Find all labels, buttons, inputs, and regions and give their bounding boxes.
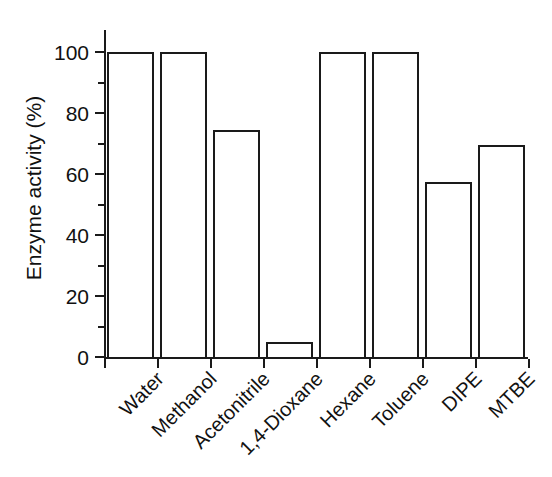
- y-tick-label: 0: [77, 347, 89, 368]
- bar-chart-figure: Enzyme activity (%) 020406080100 WaterMe…: [0, 0, 552, 477]
- bar: [372, 52, 419, 357]
- x-axis-label: MTBE: [484, 368, 537, 421]
- x-tick: [210, 359, 212, 368]
- x-tick: [475, 359, 477, 368]
- y-tick-label: 80: [66, 103, 89, 124]
- x-axis-label: Hexane: [316, 368, 379, 431]
- y-tick-minor: [98, 204, 104, 206]
- y-tick-major: 20: [95, 295, 104, 297]
- x-tick: [263, 359, 265, 368]
- x-axis-label: Water: [115, 368, 166, 419]
- bar: [107, 52, 154, 357]
- x-tick: [316, 359, 318, 368]
- y-tick-minor: [98, 326, 104, 328]
- x-tick: [369, 359, 371, 368]
- x-tick: [157, 359, 159, 368]
- bar: [425, 182, 472, 357]
- y-tick-label: 60: [66, 164, 89, 185]
- bar: [213, 130, 260, 357]
- x-axis-label-text: Toluene: [368, 368, 432, 432]
- y-tick-major: 80: [95, 112, 104, 114]
- x-axis-label-text: Water: [115, 368, 166, 419]
- x-axis-label-text: DIPE: [437, 368, 484, 415]
- x-tick: [422, 359, 424, 368]
- plot-area: 020406080100: [104, 30, 528, 359]
- y-tick-label: 100: [54, 42, 89, 63]
- x-axis-label: DIPE: [437, 368, 484, 415]
- y-tick-label: 20: [66, 286, 89, 307]
- y-tick-major: 100: [95, 51, 104, 53]
- y-tick-label: 40: [66, 225, 89, 246]
- bar: [160, 52, 207, 357]
- x-tick: [528, 359, 530, 368]
- x-axis-label-text: MTBE: [484, 368, 537, 421]
- x-tick: [104, 359, 106, 368]
- y-axis-title: Enzyme activity (%): [14, 18, 54, 358]
- y-tick-minor: [98, 265, 104, 267]
- bar: [478, 145, 525, 357]
- y-axis-spine: [104, 30, 106, 359]
- bar: [266, 342, 313, 357]
- bar: [319, 52, 366, 357]
- y-tick-major: 40: [95, 234, 104, 236]
- y-tick-minor: [98, 143, 104, 145]
- x-axis-label-text: Hexane: [316, 368, 379, 431]
- y-tick-major: 60: [95, 173, 104, 175]
- y-tick-major: 0: [95, 356, 104, 358]
- y-tick-minor: [98, 82, 104, 84]
- x-axis-label: Toluene: [368, 368, 432, 432]
